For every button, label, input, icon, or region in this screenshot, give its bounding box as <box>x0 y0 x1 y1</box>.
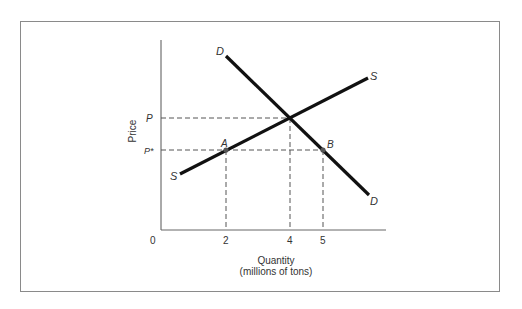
supply-start-label: S <box>170 170 178 182</box>
y-axis-title: Price <box>127 119 138 142</box>
x-tick-5: 5 <box>320 235 326 246</box>
supply-end-label: S <box>370 70 378 82</box>
demand-curve <box>226 56 369 195</box>
point-a-label: A <box>220 138 228 149</box>
x-axis-subtitle: (millions of tons) <box>240 266 313 277</box>
demand-end-label: D <box>370 195 378 207</box>
origin-label: 0 <box>150 235 156 246</box>
supply-demand-chart: D D S S A B P P* 0 2 4 5 Quantity (milli… <box>0 0 522 309</box>
x-tick-4: 4 <box>287 235 293 246</box>
supply-curve <box>180 78 368 174</box>
x-tick-2: 2 <box>223 235 229 246</box>
price-pstar-label: P* <box>144 146 154 156</box>
demand-start-label: D <box>216 45 224 57</box>
price-p-label: P <box>146 113 153 124</box>
point-b-label: B <box>327 139 334 150</box>
x-axis-title: Quantity <box>257 255 294 266</box>
point-b-marker <box>320 147 325 152</box>
